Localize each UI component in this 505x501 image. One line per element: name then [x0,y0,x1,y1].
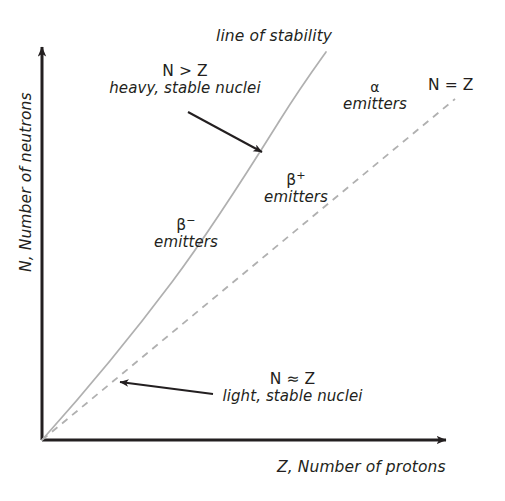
label-n-greater-than-z-line2: heavy, stable nuclei [85,80,285,97]
label-alpha-emitters: α emitters [330,80,420,112]
beta-plus-superscript: + [296,169,305,182]
callout-arrow-light-nuclei [120,382,213,394]
alpha-symbol: α [330,80,420,96]
beta-glyph: β [176,216,186,234]
label-n-approximately-z-line2: light, stable nuclei [205,388,380,405]
beta-plus-symbol: β+ [248,172,344,189]
label-n-approximately-z: N ≈ Z light, stable nuclei [205,371,380,405]
label-n-greater-than-z: N > Z heavy, stable nuclei [85,63,285,97]
x-axis-label: Z, Number of protons [277,459,446,476]
label-alpha-emitters-line2: emitters [330,96,420,113]
label-beta-plus-emitters: β+ emitters [248,172,344,206]
label-n-approximately-z-line1: N ≈ Z [205,371,380,388]
beta-minus-superscript: − [186,214,195,227]
label-line-of-stability: line of stability [216,28,332,45]
callout-arrow-heavy-nuclei [188,112,262,152]
y-axis-label: N, Number of neutrons [18,92,35,272]
label-beta-plus-emitters-line2: emitters [248,189,344,206]
label-beta-minus-emitters: β− emitters [140,217,232,251]
nuclide-stability-diagram: line of stability N > Z heavy, stable nu… [0,0,505,501]
label-beta-minus-emitters-line2: emitters [140,234,232,251]
label-n-equals-z: N = Z [428,77,474,94]
beta-minus-symbol: β− [140,217,232,234]
label-n-greater-than-z-line1: N > Z [85,63,285,80]
beta-glyph: β [286,171,296,189]
